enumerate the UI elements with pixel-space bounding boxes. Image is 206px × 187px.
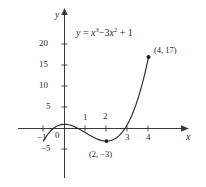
x-axis-label: x — [186, 133, 190, 143]
y-tick-label--5: −5 — [41, 144, 51, 153]
y-tick-label-20: 20 — [39, 39, 48, 48]
x-tick-label-3: 3 — [125, 133, 130, 142]
y-tick-label-5: 5 — [46, 102, 51, 111]
y-axis-arrowhead — [61, 8, 68, 15]
y-tick-label-15: 15 — [39, 60, 48, 69]
y-tick-label-10: 10 — [39, 81, 48, 90]
x-tick-label-2: 2 — [103, 112, 108, 121]
annotation-local-minimum: (2, −3) — [89, 150, 112, 159]
annotation-endpoint: (4, 17) — [154, 46, 177, 55]
cubic-function-graph: 20 15 10 5 −5 −1 0 1 2 3 4 y x y = x3−3x… — [0, 0, 206, 187]
x-tick-label-0: 0 — [55, 131, 60, 140]
equation-label: y = x3−3x2 + 1 — [76, 27, 133, 38]
equation-constant: 1 — [128, 27, 133, 38]
y-axis-label: y — [55, 11, 59, 21]
x-axis-arrowhead — [181, 125, 189, 132]
point-marker-endpoint — [147, 55, 151, 59]
x-tick-label-1: 1 — [83, 113, 88, 122]
x-axis — [18, 125, 189, 132]
point-marker-local-minimum — [105, 139, 109, 143]
x-tick-label-4: 4 — [146, 133, 151, 142]
y-axis — [61, 8, 68, 178]
x-tick-label--1: −1 — [37, 133, 47, 142]
